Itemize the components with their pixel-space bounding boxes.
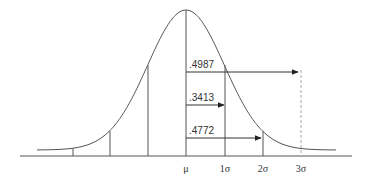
area-label-2sigma: .4772	[189, 125, 214, 136]
area-arrow-1sigma: .3413	[186, 92, 224, 105]
area-arrow-3sigma: .4987	[186, 59, 298, 72]
normal-distribution-diagram: .4987 .3413 .4772 μ 1σ 2σ 3σ	[0, 0, 372, 180]
axis-label-mu: μ	[183, 163, 188, 174]
axis-label-2sigma: 2σ	[258, 163, 269, 174]
area-label-1sigma: .3413	[189, 92, 214, 103]
area-label-3sigma: .4987	[189, 59, 214, 70]
axis-label-1sigma: 1σ	[220, 163, 231, 174]
area-arrow-2sigma: .4772	[186, 125, 261, 138]
axis-label-3sigma: 3σ	[296, 163, 307, 174]
